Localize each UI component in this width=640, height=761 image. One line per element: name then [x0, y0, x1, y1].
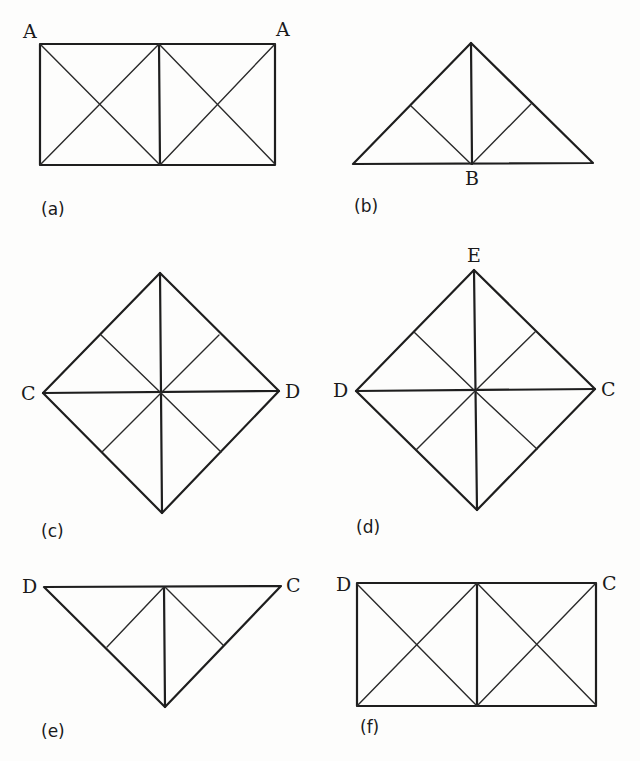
- panel-d-caption: (d): [356, 517, 380, 537]
- panel-c-vertex-label-left: C: [21, 382, 36, 404]
- panel-d-fold-lower-left: [416, 391, 475, 450]
- panel-e: D C (e): [22, 574, 301, 741]
- panel-e-caption: (e): [41, 721, 65, 741]
- panel-e-vertex-label-left: D: [22, 575, 37, 597]
- panel-d-fold-upper-left: [414, 332, 475, 391]
- panel-f-vertex-label-right: C: [602, 572, 617, 594]
- panel-a-caption: (a): [41, 199, 65, 219]
- panel-b: B (b): [353, 43, 593, 216]
- panel-b-altitude: [471, 43, 472, 164]
- panel-d: E D C (d): [333, 244, 616, 537]
- panel-c-fold-upper-right: [161, 335, 219, 393]
- panel-e-right-fold: [165, 587, 223, 645]
- panel-a-vertex-label-right: A: [275, 18, 290, 40]
- panel-c-fold-upper-left: [101, 335, 161, 393]
- panel-a-rectangle: [40, 44, 275, 165]
- panel-c-fold-lower-right: [161, 393, 221, 452]
- panel-a-center-divider: [159, 44, 160, 165]
- panel-b-triangle: [353, 43, 593, 164]
- panel-f: D C (f): [336, 572, 617, 737]
- panel-d-fold-upper-right: [475, 332, 535, 391]
- panel-a-vertex-label-left: A: [22, 20, 37, 42]
- panel-e-triangle: [44, 586, 281, 707]
- panel-d-vertex-label-right: C: [601, 378, 616, 400]
- panel-a: A A (a): [22, 18, 290, 219]
- panel-b-vertex-label-base: B: [465, 167, 479, 189]
- panel-d-vertex-label-top: E: [467, 244, 481, 266]
- panel-d-fold-lower-right: [475, 391, 537, 449]
- panel-c-vertex-label-right: D: [285, 380, 300, 402]
- panel-d-vertex-label-left: D: [333, 379, 348, 401]
- panel-f-caption: (f): [360, 717, 379, 737]
- panel-c-fold-lower-left: [102, 393, 161, 452]
- panel-e-altitude: [164, 587, 165, 707]
- panel-b-left-fold: [411, 106, 471, 164]
- fold-diagram-figure: A A (a) B (b) C D (c) E D C (d): [0, 0, 640, 761]
- panel-f-vertex-label-left: D: [336, 573, 351, 595]
- panel-c-caption: (c): [41, 521, 64, 541]
- panel-b-caption: (b): [354, 196, 378, 216]
- panel-b-right-fold: [473, 104, 531, 163]
- panel-e-left-fold: [107, 587, 164, 647]
- panel-c: C D (c): [21, 273, 300, 541]
- panel-e-vertex-label-right: C: [286, 574, 301, 596]
